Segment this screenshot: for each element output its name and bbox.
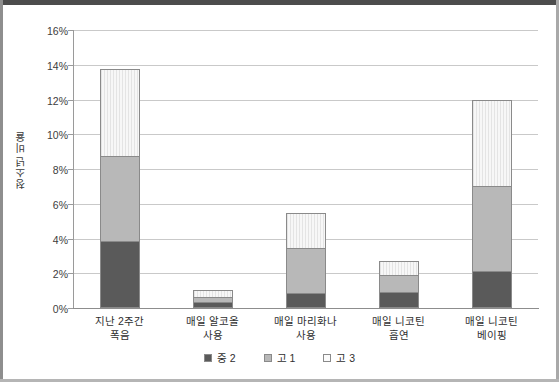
y-axis-tick-label: 8%: [30, 164, 68, 176]
bar-segment[interactable]: [286, 248, 326, 294]
scan-edge-left: [0, 0, 3, 382]
y-axis-title: 청소년 비율: [14, 131, 28, 189]
bar-segment[interactable]: [379, 261, 419, 277]
legend-item[interactable]: 고 3: [323, 350, 355, 365]
bar-segment[interactable]: [100, 241, 140, 308]
stacked-bar[interactable]: [193, 290, 233, 308]
y-axis-tick-label: 6%: [30, 199, 68, 211]
x-axis-category-label-line: 사용: [160, 329, 265, 343]
bar-group: [259, 30, 352, 308]
x-axis-category-label-line: 매일 마리화나: [274, 315, 337, 327]
bar-segment[interactable]: [472, 186, 512, 272]
x-axis-category-label-line: 지난 2주간: [95, 315, 144, 327]
y-axis-tick-label: 14%: [30, 60, 68, 72]
x-axis-category-label-line: 매일 니코틴: [465, 315, 518, 327]
y-axis-tick-label: 0%: [30, 303, 68, 315]
x-axis-line: [73, 308, 539, 309]
x-axis-category-label-line: 흡연: [346, 329, 451, 343]
bar-group: [352, 30, 445, 308]
x-axis-category-label-line: 매일 알코올: [186, 315, 239, 327]
bar-segment[interactable]: [472, 100, 512, 187]
bar-segment[interactable]: [100, 156, 140, 242]
legend-item[interactable]: 중 2: [204, 350, 236, 365]
bar-group: [166, 30, 259, 308]
stacked-bar[interactable]: [379, 261, 419, 308]
bar-group: [445, 30, 538, 308]
x-axis-category-label-line: 베이핑: [439, 329, 544, 343]
y-axis-tick-label: 16%: [30, 25, 68, 37]
legend-swatch-icon: [204, 354, 212, 362]
chart-page: 청소년 비율 0%2%4%6%8%10%12%14%16% 지난 2주간폭음매일…: [0, 0, 559, 382]
stacked-bar[interactable]: [472, 100, 512, 308]
bar-segment[interactable]: [286, 213, 326, 249]
x-axis-category-label-line: 매일 니코틴: [372, 315, 425, 327]
y-axis-tick-label: 2%: [30, 268, 68, 280]
x-axis-category-label: 매일 니코틴흡연: [346, 315, 451, 342]
legend-item[interactable]: 고 1: [264, 350, 296, 365]
stacked-bar[interactable]: [100, 69, 140, 308]
bar-segment[interactable]: [100, 69, 140, 157]
y-axis-tick-label: 4%: [30, 234, 68, 246]
legend-label: 고 3: [336, 350, 355, 365]
x-axis-category-label: 매일 니코틴베이핑: [439, 315, 544, 342]
stacked-bar[interactable]: [286, 213, 326, 308]
y-axis-tick-label: 12%: [30, 95, 68, 107]
legend-swatch-icon: [323, 354, 331, 362]
x-axis-category-label: 지난 2주간폭음: [67, 315, 172, 342]
scan-edge-top: [0, 0, 559, 5]
legend-label: 중 2: [217, 350, 236, 365]
chart-legend: 중 2고 1고 3: [0, 350, 559, 365]
bar-segment[interactable]: [286, 293, 326, 308]
legend-label: 고 1: [277, 350, 296, 365]
bar-segment[interactable]: [379, 275, 419, 293]
plot-area: [73, 30, 538, 308]
legend-swatch-icon: [264, 354, 272, 362]
bar-segment[interactable]: [472, 271, 512, 308]
x-axis-category-label: 매일 알코올사용: [160, 315, 265, 342]
bar-segment[interactable]: [379, 292, 419, 308]
x-axis-category-label-line: 폭음: [67, 329, 172, 343]
bar-group: [73, 30, 166, 308]
y-axis-line: [73, 30, 74, 309]
x-axis-category-label: 매일 마리화나사용: [253, 315, 358, 342]
y-axis-tick-label: 10%: [30, 129, 68, 141]
x-axis-category-label-line: 사용: [253, 329, 358, 343]
